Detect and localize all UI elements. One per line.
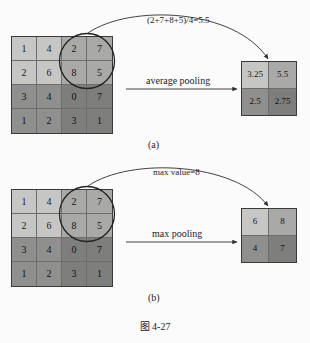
output-feature-map-a: 3.25 5.5 2.5 2.75 bbox=[241, 61, 297, 116]
output-cell: 4 bbox=[242, 236, 269, 263]
input-feature-map-b: 1 4 2 7 2 6 8 5 3 4 0 7 1 2 3 1 bbox=[11, 189, 113, 287]
input-cell: 8 bbox=[62, 61, 87, 85]
panel-max-pooling: 1 4 2 7 2 6 8 5 3 4 0 7 1 2 3 1 6 8 4 7 bbox=[0, 160, 310, 310]
input-cell: 6 bbox=[37, 61, 62, 85]
input-cell: 0 bbox=[62, 238, 87, 262]
input-cell: 7 bbox=[87, 190, 112, 214]
input-cell: 6 bbox=[37, 214, 62, 238]
average-pooling-label: average pooling bbox=[146, 76, 210, 86]
output-cell: 2.5 bbox=[242, 89, 269, 116]
input-cell: 0 bbox=[62, 85, 87, 109]
panel-a-sublabel: (a) bbox=[148, 140, 159, 150]
input-cell: 5 bbox=[87, 61, 112, 85]
input-cell: 2 bbox=[62, 190, 87, 214]
input-cell: 3 bbox=[62, 262, 87, 286]
figure-caption: 图 4-27 bbox=[0, 322, 310, 332]
input-cell: 4 bbox=[37, 37, 62, 61]
output-cell: 2.75 bbox=[269, 89, 296, 116]
input-cell: 1 bbox=[12, 262, 37, 286]
input-cell: 2 bbox=[37, 109, 62, 133]
output-cell: 5.5 bbox=[269, 62, 296, 89]
input-cell: 3 bbox=[62, 109, 87, 133]
input-cell: 2 bbox=[12, 214, 37, 238]
input-cell: 7 bbox=[87, 238, 112, 262]
output-cell: 3.25 bbox=[242, 62, 269, 89]
input-cell: 1 bbox=[12, 109, 37, 133]
input-cell: 4 bbox=[37, 85, 62, 109]
input-cell: 2 bbox=[37, 262, 62, 286]
input-cell: 8 bbox=[62, 214, 87, 238]
input-cell: 4 bbox=[37, 190, 62, 214]
max-pooling-label: max pooling bbox=[152, 229, 202, 239]
output-cell: 8 bbox=[269, 209, 296, 236]
input-cell: 7 bbox=[87, 85, 112, 109]
panel-b-sublabel: (b) bbox=[148, 293, 160, 303]
output-cell: 6 bbox=[242, 209, 269, 236]
panel-average-pooling: 1 4 2 7 2 6 8 5 3 4 0 7 1 2 3 1 3.25 5.5… bbox=[0, 0, 310, 160]
output-feature-map-b: 6 8 4 7 bbox=[241, 208, 297, 263]
input-cell: 3 bbox=[12, 85, 37, 109]
input-cell: 1 bbox=[12, 37, 37, 61]
input-cell: 5 bbox=[87, 214, 112, 238]
input-cell: 1 bbox=[12, 190, 37, 214]
average-formula-label: (2+7+8+5)/4=5.5 bbox=[147, 16, 210, 25]
input-cell: 7 bbox=[87, 37, 112, 61]
input-feature-map-a: 1 4 2 7 2 6 8 5 3 4 0 7 1 2 3 1 bbox=[11, 36, 113, 134]
input-cell: 1 bbox=[87, 262, 112, 286]
input-cell: 4 bbox=[37, 238, 62, 262]
input-cell: 2 bbox=[12, 61, 37, 85]
input-cell: 2 bbox=[62, 37, 87, 61]
output-cell: 7 bbox=[269, 236, 296, 263]
input-cell: 1 bbox=[87, 109, 112, 133]
input-cell: 3 bbox=[12, 238, 37, 262]
max-value-label: max value=8 bbox=[153, 168, 200, 177]
